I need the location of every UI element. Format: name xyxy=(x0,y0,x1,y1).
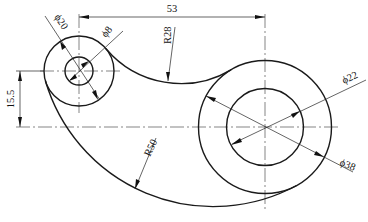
lower-blend-arc-r50 xyxy=(45,81,296,207)
dimension-53: 53 xyxy=(79,3,265,19)
dimension-phi20: ϕ20 xyxy=(45,12,100,100)
dim-text-53: 53 xyxy=(167,3,178,14)
dimension-r50: R50 xyxy=(135,137,159,189)
dim-text-phi8: ϕ8 xyxy=(99,24,114,39)
centerlines xyxy=(16,14,340,212)
dim-text-r50: R50 xyxy=(142,137,159,158)
dimension-phi8: ϕ8 xyxy=(69,24,123,81)
part-drawing: 53 15.5 ϕ20 ϕ8 R28 ϕ22 ϕ38 xyxy=(0,0,368,222)
part-outline xyxy=(44,36,332,207)
dim-text-phi20: ϕ20 xyxy=(52,12,70,31)
dimension-15-5: 15.5 xyxy=(5,71,44,127)
dim-text-r28: R28 xyxy=(162,26,173,44)
dim-text-phi22: ϕ22 xyxy=(340,69,359,86)
dimension-r28: R28 xyxy=(162,26,175,81)
dim-text-phi38: ϕ38 xyxy=(338,157,357,173)
dim-text-15-5: 15.5 xyxy=(5,90,16,108)
